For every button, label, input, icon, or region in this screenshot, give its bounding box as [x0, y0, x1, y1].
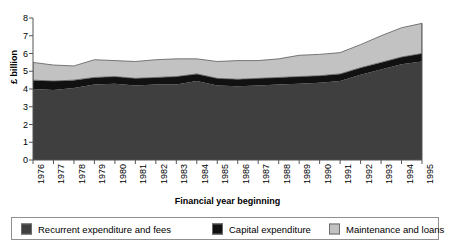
- x-tick-label: 1993: [385, 164, 394, 184]
- legend-item-label: Maintenance and loans: [346, 223, 444, 234]
- x-tick-label: 1987: [262, 164, 271, 184]
- chart-legend: Recurrent expenditure and fees Capital e…: [11, 217, 439, 240]
- x-tick-label: 1980: [119, 164, 128, 184]
- x-tick-label: 1992: [365, 164, 374, 184]
- legend-item-label: Recurrent expenditure and fees: [38, 223, 171, 234]
- x-axis-tick-labels: 1976197719781979198019811982198319841985…: [0, 0, 455, 250]
- x-tick-label: 1978: [78, 164, 87, 184]
- legend-swatch-icon: [329, 223, 340, 234]
- x-tick-label: 1986: [242, 164, 251, 184]
- x-axis-title: Financial year beginning: [0, 196, 455, 206]
- x-tick-label: 1981: [139, 164, 148, 184]
- legend-item-capital-expenditure[interactable]: Capital expenditure: [212, 223, 311, 234]
- x-tick-label: 1984: [201, 164, 210, 184]
- legend-item-label: Capital expenditure: [229, 223, 311, 234]
- x-tick-label: 1989: [303, 164, 312, 184]
- x-tick-label: 1988: [283, 164, 292, 184]
- x-tick-label: 1976: [37, 164, 46, 184]
- area-chart: £ billion 012345678 19761977197819791980…: [0, 0, 455, 250]
- legend-swatch-icon: [212, 223, 223, 234]
- x-tick-label: 1990: [324, 164, 333, 184]
- x-tick-label: 1977: [57, 164, 66, 184]
- legend-swatch-icon: [21, 223, 32, 234]
- legend-item-recurrent-expenditure-and-fees[interactable]: Recurrent expenditure and fees: [21, 223, 171, 234]
- x-tick-label: 1994: [406, 164, 415, 184]
- x-tick-label: 1979: [98, 164, 107, 184]
- x-tick-label: 1982: [160, 164, 169, 184]
- x-tick-label: 1985: [221, 164, 230, 184]
- x-tick-label: 1991: [344, 164, 353, 184]
- x-tick-label: 1983: [180, 164, 189, 184]
- x-tick-label: 1995: [426, 164, 435, 184]
- legend-item-maintenance-and-loans[interactable]: Maintenance and loans: [329, 223, 444, 234]
